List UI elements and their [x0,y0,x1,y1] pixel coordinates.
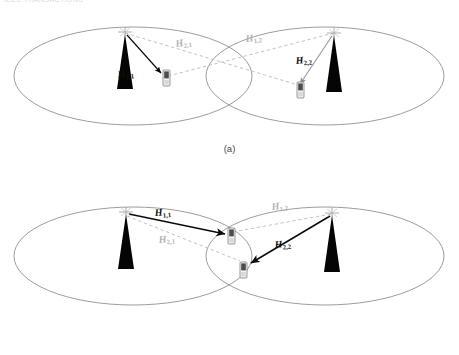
tower-mast [326,35,342,92]
handset-screen [229,229,234,236]
channel-line-h22 [251,216,330,263]
mobile-station-1 [228,228,235,244]
handset-keypad [229,238,234,242]
handset-screen [241,263,246,270]
channel-label-h22: H2,2 [273,237,292,251]
base-station-1 [118,207,134,269]
cell-ellipse-left [14,207,252,305]
mobile-station-1 [163,70,170,86]
figure-panel-a: H1,1 H2,1 H1,2 H2,2 (a) [0,0,459,178]
cell-ellipse-right [206,27,444,125]
base-station-2 [326,28,342,92]
panel-caption-a: (a) [0,143,459,154]
mobile-station-2 [240,262,247,278]
tower-mast [118,214,134,269]
handset-keypad [298,92,303,96]
channel-label-h12: H1,2 [270,199,289,213]
handset-keypad [164,80,169,84]
figure-panel-b: H1,1 H2,1 H1,2 H2,2 (b) [0,178,459,355]
channel-line-h21 [127,216,240,261]
mobile-station-2 [297,82,304,98]
channel-line-h12 [238,214,331,231]
panel-b-graphic: H1,1 H2,1 H1,2 H2,2 [0,178,459,355]
handset-keypad [241,272,246,276]
channel-line-h11 [127,35,161,73]
figure-container: IEEE TRANSACTIONS [0,0,459,355]
channel-label-h11: H1,1 [153,206,171,220]
handset-screen [164,71,169,78]
tower-mast [324,215,340,272]
cell-ellipse-right [206,207,444,305]
channel-label-h12: H1,2 [244,31,263,45]
channel-line-h11 [129,214,225,234]
tower-mast [117,34,133,89]
channel-line-h21 [125,33,298,85]
channel-label-h21: H2,1 [174,36,193,51]
handset-screen [298,83,303,90]
channel-label-h22: H2,2 [294,53,313,67]
